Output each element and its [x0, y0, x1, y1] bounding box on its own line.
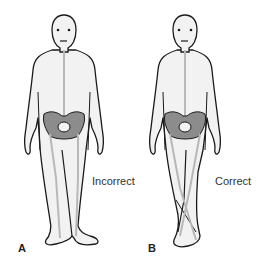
eye-icon — [190, 29, 193, 32]
caption-incorrect: Incorrect — [92, 175, 135, 187]
panel-label-a: A — [18, 242, 26, 254]
eye-icon — [57, 29, 60, 32]
caption-correct: Correct — [215, 175, 251, 187]
eye-icon — [178, 29, 181, 32]
eye-icon — [68, 29, 71, 32]
posture-diagram — [0, 0, 262, 266]
figure-b-body — [149, 15, 220, 247]
figure-a-body — [24, 15, 103, 245]
panel-label-b: B — [148, 242, 156, 254]
figure-canvas: Incorrect Correct A B — [0, 0, 262, 266]
